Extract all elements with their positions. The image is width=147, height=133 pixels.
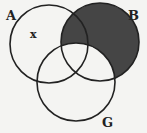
venn-diagram: A B G x	[0, 0, 147, 133]
label-g: G	[102, 115, 113, 130]
label-b: B	[128, 8, 139, 23]
label-x: x	[30, 28, 37, 41]
label-a: A	[5, 8, 17, 23]
